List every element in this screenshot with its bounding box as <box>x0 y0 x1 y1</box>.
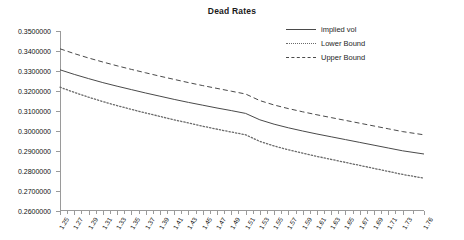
x-axis-minor-tick-mark <box>353 211 354 214</box>
x-axis-minor-tick-mark <box>253 211 254 214</box>
x-axis: 1.251.271.291.311.331.351.371.391.411.43… <box>60 211 424 240</box>
x-axis-minor-tick-mark <box>367 211 368 214</box>
x-axis-minor-tick-mark <box>210 211 211 214</box>
x-axis-tick-mark <box>403 211 404 215</box>
x-axis-tick-label: 1.65 <box>343 216 355 230</box>
y-axis-tick-label: 0.3200000 <box>18 88 51 95</box>
y-axis-tick-label: 0.2800000 <box>18 168 51 175</box>
x-axis-tick-mark <box>174 211 175 215</box>
x-axis-minor-tick-mark <box>310 211 311 214</box>
x-axis-minor-tick-mark <box>224 211 225 214</box>
x-axis-tick-mark <box>188 211 189 215</box>
x-axis-minor-tick-mark <box>139 211 140 214</box>
y-axis-tick-label: 0.3300000 <box>18 68 51 75</box>
x-axis-tick-label: 1.57 <box>286 216 298 230</box>
y-axis-tick-label: 0.3500000 <box>18 28 51 35</box>
x-axis-tick-label: 1.29 <box>86 216 98 230</box>
x-axis-minor-tick-mark <box>153 211 154 214</box>
x-axis-tick-label: 1.27 <box>72 216 84 230</box>
x-axis-tick-label: 1.73 <box>400 216 412 230</box>
y-axis-tick-label: 0.3400000 <box>18 48 51 55</box>
x-axis-minor-tick-mark <box>124 211 125 214</box>
x-axis-minor-tick-mark <box>338 211 339 214</box>
x-axis-tick-label: 1.67 <box>357 216 369 230</box>
x-axis-tick-mark <box>160 211 161 215</box>
x-axis-minor-tick-mark <box>67 211 68 214</box>
x-axis-tick-mark <box>146 211 147 215</box>
y-axis-tick-label: 0.2900000 <box>18 148 51 155</box>
x-axis-tick-label: 1.49 <box>229 216 241 230</box>
x-axis-minor-tick-mark <box>96 211 97 214</box>
x-axis-tick-label: 1.33 <box>115 216 127 230</box>
chart-title: Dead Rates <box>0 6 464 16</box>
series-line-lower-bound <box>60 87 424 178</box>
x-axis-minor-tick-mark <box>196 211 197 214</box>
y-axis-tick-label: 0.2600000 <box>18 208 51 215</box>
chart-screenshot: Dead Rates implied volLower BoundUpper B… <box>0 0 464 240</box>
x-axis-tick-mark <box>388 211 389 215</box>
x-axis-tick-label: 1.53 <box>258 216 270 230</box>
x-axis-tick-mark <box>288 211 289 215</box>
x-axis-tick-mark <box>60 211 61 215</box>
y-axis: 0.35000000.34000000.33000000.32000000.31… <box>0 31 56 211</box>
x-axis-tick-mark <box>217 211 218 215</box>
x-axis-minor-tick-mark <box>281 211 282 214</box>
x-axis-tick-label: 1.55 <box>272 216 284 230</box>
x-axis-tick-label: 1.35 <box>129 216 141 230</box>
x-axis-tick-mark <box>103 211 104 215</box>
x-axis-tick-mark <box>231 211 232 215</box>
x-axis-tick-label: 1.59 <box>300 216 312 230</box>
x-axis-tick-label: 1.71 <box>386 216 398 230</box>
x-axis-tick-mark <box>89 211 90 215</box>
x-axis-tick-label: 1.37 <box>143 216 155 230</box>
x-axis-minor-tick-mark <box>324 211 325 214</box>
plot-area <box>60 31 424 211</box>
x-axis-tick-mark <box>260 211 261 215</box>
x-axis-tick-label: 1.63 <box>329 216 341 230</box>
x-axis-minor-tick-mark <box>181 211 182 214</box>
x-axis-tick-label: 1.41 <box>172 216 184 230</box>
x-axis-tick-label: 1.51 <box>243 216 255 230</box>
x-axis-tick-mark <box>274 211 275 215</box>
x-axis-tick-label: 1.25 <box>58 216 70 230</box>
y-axis-tick-label: 0.3100000 <box>18 108 51 115</box>
x-axis-tick-label: 1.47 <box>215 216 227 230</box>
x-axis-tick-mark <box>246 211 247 215</box>
x-axis-minor-tick-mark <box>110 211 111 214</box>
x-axis-minor-tick-mark <box>381 211 382 214</box>
series-layer <box>60 31 424 211</box>
x-axis-tick-label: 1.61 <box>315 216 327 230</box>
x-axis-tick-label: 1.39 <box>158 216 170 230</box>
x-axis-tick-mark <box>374 211 375 215</box>
x-axis-tick-mark <box>317 211 318 215</box>
x-axis-tick-mark <box>303 211 304 215</box>
x-axis-tick-mark <box>74 211 75 215</box>
x-axis-tick-mark <box>117 211 118 215</box>
y-axis-tick-label: 0.2700000 <box>18 188 51 195</box>
x-axis-tick-mark <box>424 211 425 215</box>
x-axis-tick-label: 1.31 <box>100 216 112 230</box>
y-axis-tick-label: 0.3000000 <box>18 128 51 135</box>
x-axis-minor-tick-mark <box>167 211 168 214</box>
x-axis-tick-mark <box>203 211 204 215</box>
x-axis-tick-mark <box>360 211 361 215</box>
x-axis-minor-tick-mark <box>238 211 239 214</box>
x-axis-minor-tick-mark <box>81 211 82 214</box>
x-axis-tick-mark <box>331 211 332 215</box>
x-axis-tick-label: 1.45 <box>200 216 212 230</box>
x-axis-tick-label: 1.76 <box>422 216 434 230</box>
x-axis-tick-label: 1.69 <box>372 216 384 230</box>
x-axis-tick-mark <box>131 211 132 215</box>
x-axis-minor-tick-mark <box>395 211 396 214</box>
x-axis-minor-tick-mark <box>267 211 268 214</box>
series-line-upper-bound <box>60 49 424 135</box>
x-axis-tick-label: 1.43 <box>186 216 198 230</box>
x-axis-minor-tick-mark <box>296 211 297 214</box>
x-axis-minor-tick-mark <box>413 211 414 214</box>
x-axis-tick-mark <box>345 211 346 215</box>
series-line-implied-vol <box>60 70 424 154</box>
